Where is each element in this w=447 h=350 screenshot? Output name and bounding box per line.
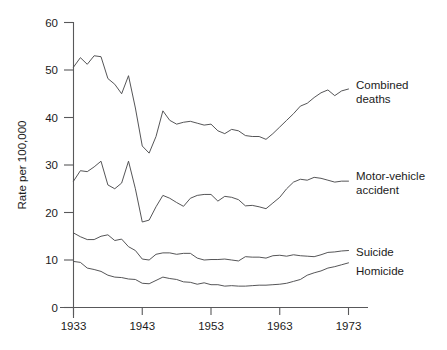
series-label-combined-deaths-line1: Combined — [356, 79, 408, 93]
series-label-combined-deaths: Combined deaths — [356, 79, 408, 106]
series-label-motor-vehicle-accident: Motor-vehicle accident — [356, 170, 425, 197]
y-tick-label-10: 10 — [45, 254, 58, 266]
series-line-motor-vehicle-accident — [74, 161, 349, 222]
y-axis-group: 0102030405060 — [45, 17, 73, 318]
y-tick-labels: 0102030405060 — [45, 17, 58, 314]
x-tick-label-1943: 1943 — [129, 320, 155, 332]
y-tick-marks — [64, 23, 74, 308]
y-tick-label-20: 20 — [45, 207, 58, 219]
series-line-homicide — [74, 261, 349, 286]
y-tick-label-50: 50 — [45, 64, 58, 76]
x-tick-marks — [74, 308, 349, 316]
x-tick-label-1963: 1963 — [267, 320, 293, 332]
series-label-homicide-line1: Homicide — [356, 265, 404, 279]
y-tick-label-60: 60 — [45, 17, 58, 29]
x-axis-group: 19331943195319631973 — [60, 308, 368, 333]
series-label-suicide: Suicide — [356, 246, 394, 260]
series-label-motor-vehicle-accident-line2: accident — [356, 184, 425, 198]
series-label-homicide: Homicide — [356, 265, 404, 279]
x-tick-labels: 19331943195319631973 — [61, 320, 362, 332]
y-tick-label-0: 0 — [52, 302, 58, 314]
series-line-combined-deaths — [74, 56, 349, 153]
y-tick-label-30: 30 — [45, 159, 58, 171]
y-axis-title-text: Rate per 100,000 — [16, 121, 28, 210]
series-paths — [74, 56, 349, 286]
x-tick-label-1973: 1973 — [336, 320, 362, 332]
y-axis-title: Rate per 100,000 — [16, 121, 28, 210]
series-label-combined-deaths-line2: deaths — [356, 93, 408, 107]
series-line-suicide — [74, 233, 349, 261]
y-tick-label-40: 40 — [45, 112, 58, 124]
chart-figure: 0102030405060 19331943195319631973 Rate … — [0, 0, 447, 350]
series-label-suicide-line1: Suicide — [356, 246, 394, 260]
series-label-motor-vehicle-accident-line1: Motor-vehicle — [356, 170, 425, 184]
x-tick-label-1953: 1953 — [198, 320, 224, 332]
x-tick-label-1933: 1933 — [61, 320, 87, 332]
